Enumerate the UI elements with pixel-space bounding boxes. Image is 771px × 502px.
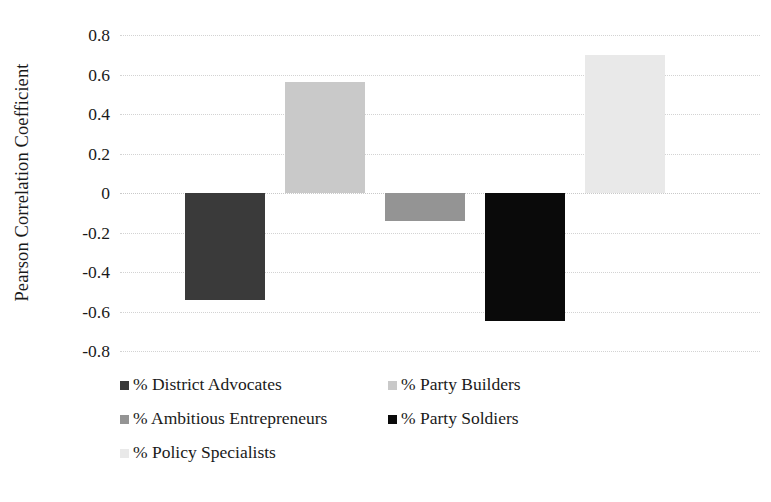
legend-row: % Policy Specialists bbox=[120, 438, 720, 468]
legend-item-label: % Party Soldiers bbox=[401, 410, 519, 428]
legend-item[interactable]: % Policy Specialists bbox=[120, 444, 276, 462]
y-axis-title: Pearson Correlation Coefficient bbox=[0, 0, 44, 365]
bar bbox=[285, 82, 365, 193]
legend-item-label: % Party Builders bbox=[401, 376, 521, 394]
y-axis-tick-label: 0.2 bbox=[88, 143, 110, 164]
legend-item[interactable]: % District Advocates bbox=[120, 376, 282, 394]
y-axis-tick-label: -0.8 bbox=[82, 341, 110, 362]
y-axis-tick-label: -0.2 bbox=[82, 222, 110, 243]
legend-swatch-icon bbox=[388, 415, 397, 424]
legend-row: % Ambitious Entrepreneurs% Party Soldier… bbox=[120, 404, 720, 434]
chart-legend: % District Advocates% Party Builders% Am… bbox=[120, 368, 720, 494]
legend-item[interactable]: % Party Builders bbox=[388, 376, 521, 394]
legend-item-label: % District Advocates bbox=[133, 376, 282, 394]
plot-area bbox=[120, 0, 760, 365]
y-axis-tick-label: 0 bbox=[101, 183, 110, 204]
bar bbox=[585, 55, 665, 193]
y-axis-title-text: Pearson Correlation Coefficient bbox=[12, 63, 33, 301]
legend-swatch-icon bbox=[120, 449, 129, 458]
y-axis-tick-label: -0.4 bbox=[82, 262, 110, 283]
legend-item-label: % Policy Specialists bbox=[133, 444, 276, 462]
legend-item-label: % Ambitious Entrepreneurs bbox=[133, 410, 327, 428]
y-axis-tick-label: -0.6 bbox=[82, 301, 110, 322]
legend-swatch-icon bbox=[388, 381, 397, 390]
y-axis-tick-labels: 0.80.60.40.20-0.2-0.4-0.6-0.8 bbox=[44, 0, 120, 365]
bar bbox=[185, 193, 265, 300]
legend-swatch-icon bbox=[120, 381, 129, 390]
legend-swatch-icon bbox=[120, 415, 129, 424]
legend-row: % District Advocates% Party Builders bbox=[120, 370, 720, 400]
y-axis-tick-label: 0.8 bbox=[88, 25, 110, 46]
y-axis-tick-label: 0.4 bbox=[88, 104, 110, 125]
legend-item[interactable]: % Ambitious Entrepreneurs bbox=[120, 410, 327, 428]
y-axis-tick-label: 0.6 bbox=[88, 64, 110, 85]
bar bbox=[385, 193, 465, 221]
bars-layer bbox=[120, 0, 760, 365]
legend-item[interactable]: % Party Soldiers bbox=[388, 410, 519, 428]
bar-chart: Pearson Correlation Coefficient 0.80.60.… bbox=[0, 0, 771, 502]
bar bbox=[485, 193, 565, 321]
